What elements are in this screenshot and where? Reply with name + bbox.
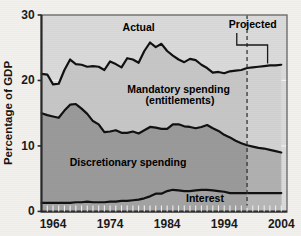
x-tick-label-1964: 1964 xyxy=(40,217,67,231)
x-tick-label-1984: 1984 xyxy=(154,217,181,231)
y-tick-label-0: 0 xyxy=(28,204,35,218)
y-tick-label-20: 20 xyxy=(21,73,35,87)
chart-canvas: 0102030 19641974198419942004 Percentage … xyxy=(0,0,301,236)
y-tick-label-10: 10 xyxy=(21,139,35,153)
series-label-mandatory-line2: (entitlements) xyxy=(146,94,215,106)
series-label-discretionary: Discretionary spending xyxy=(70,156,187,168)
series-label-interest: Interest xyxy=(186,192,224,204)
x-tick-label-1994: 1994 xyxy=(211,217,238,231)
x-tick-label-2004: 2004 xyxy=(268,217,295,231)
annotation-actual: Actual xyxy=(123,21,155,33)
budget-composition-chart: 0102030 19641974198419942004 Percentage … xyxy=(0,0,301,236)
y-tick-label-30: 30 xyxy=(21,8,35,22)
y-axis-title: Percentage of GDP xyxy=(2,61,14,165)
annotation-projected: Projected xyxy=(229,18,277,30)
x-tick-label-1974: 1974 xyxy=(97,217,124,231)
